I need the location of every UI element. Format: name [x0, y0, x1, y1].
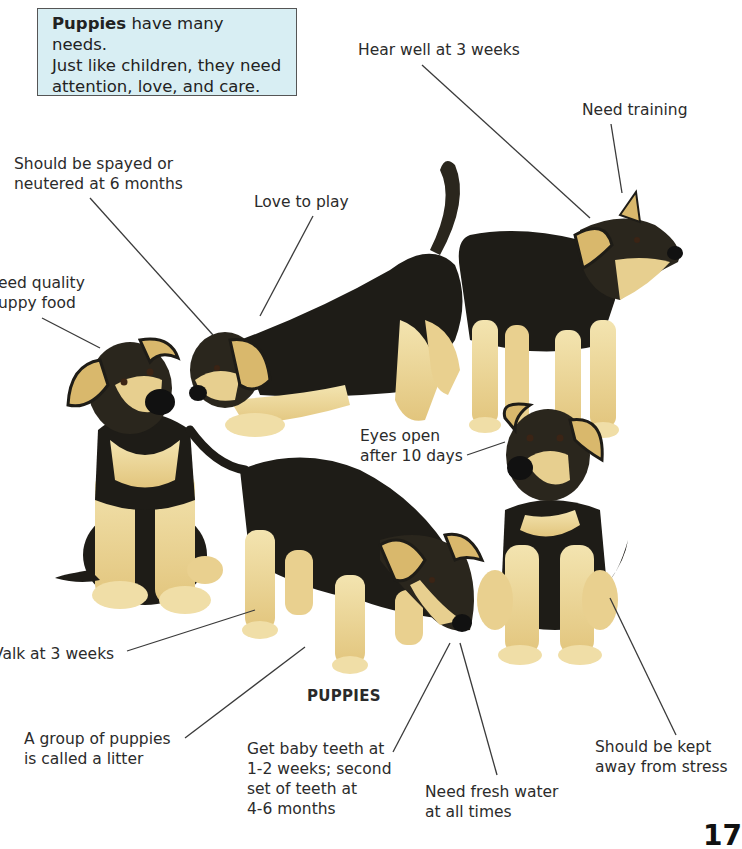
page-number: 17 — [703, 826, 742, 846]
puppy-sitting-right — [477, 404, 628, 665]
info-box-bold-lead: Puppies — [52, 14, 126, 33]
figure-caption: PUPPIES — [307, 687, 381, 705]
puppy-sniffing — [190, 430, 482, 674]
info-box: Puppies have many needs. Just like child… — [37, 8, 297, 96]
label-hear-well: Hear well at 3 weeks — [358, 40, 520, 60]
label-spayed-neutered: Should be spayed or neutered at 6 months — [14, 154, 183, 194]
label-love-to-play: Love to play — [254, 192, 349, 212]
label-need-training: Need training — [582, 100, 687, 120]
label-stress: Should be kept away from stress — [595, 737, 728, 777]
label-fresh-water: Need fresh water at all times — [425, 782, 558, 822]
info-box-line2: Just like children, they need — [52, 55, 282, 76]
info-box-line3: attention, love, and care. — [52, 76, 282, 97]
info-box-line1: Puppies have many needs. — [52, 13, 282, 55]
label-litter: A group of puppies is called a litter — [24, 729, 171, 769]
label-baby-teeth: Get baby teeth at 1-2 weeks; second set … — [247, 739, 391, 819]
label-eyes-open: Eyes open after 10 days — [360, 426, 463, 466]
label-walk: Valk at 3 weeks — [0, 644, 114, 664]
label-quality-food: eed quality uppy food — [0, 273, 85, 313]
puppy-standing — [459, 192, 683, 438]
